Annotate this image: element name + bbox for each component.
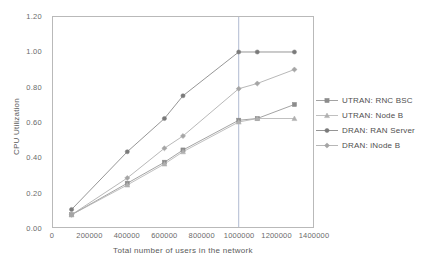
legend-item[interactable]: DRAN: iNode B xyxy=(316,138,442,153)
x-axis-tick-labels: 0200000400000600000800000100000012000001… xyxy=(52,231,314,243)
y-axis-tick-label: 1.20 xyxy=(26,12,42,21)
data-point-marker xyxy=(325,98,329,102)
legend-item-label: DRAN: RAN Server xyxy=(338,126,415,135)
x-axis-tick-label: 800000 xyxy=(189,231,215,240)
data-point-marker xyxy=(255,81,260,86)
chart-series xyxy=(69,102,296,216)
y-axis-tick-label: 0.20 xyxy=(26,188,42,197)
legend-item[interactable]: UTRAN: Node B xyxy=(316,108,442,123)
x-axis-tick-label: 0 xyxy=(50,231,54,240)
y-axis-tick-label: 1.00 xyxy=(26,47,42,56)
data-point-marker xyxy=(69,207,73,211)
y-axis-tick-label: 0.40 xyxy=(26,153,42,162)
chart-series xyxy=(69,67,297,217)
data-point-marker xyxy=(292,67,297,72)
x-axis-tick-label: 200000 xyxy=(76,231,102,240)
data-point-marker xyxy=(255,50,259,54)
legend-marker-icon xyxy=(316,110,338,121)
x-axis-tick-label: 400000 xyxy=(114,231,140,240)
data-point-marker xyxy=(125,150,129,154)
chart-series xyxy=(69,116,297,217)
data-point-marker xyxy=(162,116,166,120)
series-line xyxy=(72,104,295,214)
data-point-marker xyxy=(292,102,296,106)
legend-item[interactable]: UTRAN: RNC BSC xyxy=(316,93,442,108)
data-point-marker xyxy=(292,50,296,54)
x-axis-tick-label: 1200000 xyxy=(261,231,292,240)
y-axis-tick-label: 0.00 xyxy=(26,224,42,233)
x-axis-tick-label: 1400000 xyxy=(299,231,330,240)
legend-item-label: UTRAN: RNC BSC xyxy=(338,96,413,105)
data-point-marker xyxy=(325,128,329,132)
y-axis-tick-label: 0.80 xyxy=(26,82,42,91)
legend-marker-icon xyxy=(316,140,338,151)
y-axis-tick-labels: 0.000.200.400.600.801.001.20 xyxy=(0,16,48,228)
plot-area xyxy=(52,16,314,228)
chart-figure: CPU Utilization 0.000.200.400.600.801.00… xyxy=(0,0,442,267)
data-point-marker xyxy=(324,143,329,148)
chart-series xyxy=(69,50,296,212)
chart-series-layer xyxy=(53,17,313,227)
series-line xyxy=(72,52,295,210)
x-axis-tick-label: 600000 xyxy=(151,231,177,240)
legend-marker-icon xyxy=(316,125,338,136)
legend-item[interactable]: DRAN: RAN Server xyxy=(316,123,442,138)
data-point-marker xyxy=(237,50,241,54)
chart-legend: UTRAN: RNC BSCUTRAN: Node BDRAN: RAN Ser… xyxy=(316,93,442,153)
y-axis-tick-label: 0.60 xyxy=(26,118,42,127)
legend-item-label: DRAN: iNode B xyxy=(338,141,400,150)
x-axis-tick-label: 1000000 xyxy=(224,231,255,240)
series-line xyxy=(72,70,295,215)
data-point-marker xyxy=(181,94,185,98)
legend-marker-icon xyxy=(316,95,338,106)
x-axis-title: Total number of users in the network xyxy=(52,246,314,255)
series-line xyxy=(72,119,295,215)
legend-item-label: UTRAN: Node B xyxy=(338,111,403,120)
